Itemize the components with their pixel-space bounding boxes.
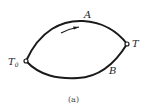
direction-arrow-icon: [61, 27, 79, 34]
start-point-label: T0: [8, 56, 19, 68]
cycle-diagram: T0 T A B (a): [0, 0, 150, 111]
end-point-label: T: [132, 38, 140, 49]
end-point-marker: [125, 42, 129, 46]
path-a-label: A: [83, 9, 91, 20]
start-point-marker: [24, 59, 28, 63]
path-b-label: B: [108, 65, 116, 76]
figure-caption: (a): [68, 95, 79, 104]
